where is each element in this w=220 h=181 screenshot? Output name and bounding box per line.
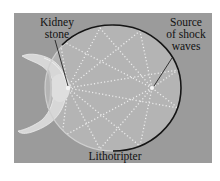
source-label-line3: waves [158,40,214,52]
source-point-icon [150,86,154,90]
source-label-line2: of shock [158,28,214,40]
lithotripter-label: Lithotripter [80,150,150,162]
kidney-stone-label: Kidney stone [32,16,82,40]
source-label-line1: Source [158,16,214,28]
kidney-stone-label-line2: stone [32,28,82,40]
source-label: Source of shock waves [158,16,214,52]
kidney-stone-point-icon [66,86,70,90]
kidney-stone-label-line1: Kidney [32,16,82,28]
